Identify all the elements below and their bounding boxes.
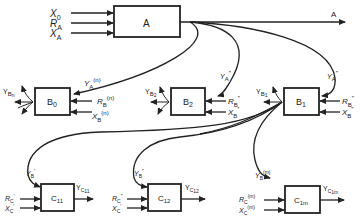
block-a-inputs: X0 RA XA (49, 8, 113, 41)
label-rb-n: RB(n) (97, 95, 114, 108)
block-b2: B2 (171, 88, 205, 115)
block-a: A (114, 6, 180, 37)
label-xb-n: XB(n) (91, 110, 109, 123)
block-b0: B0 (35, 88, 70, 115)
label-xc-p: XC′ (4, 203, 14, 214)
svg-text:A: A (331, 10, 337, 19)
block-c11: C11 (41, 184, 74, 211)
label-xc-m: XC(m) (238, 204, 255, 216)
label-yb1-m: YB(m) (255, 169, 271, 181)
label-xc-p-c12: XC′ (111, 203, 121, 214)
block-b1: B1 (284, 88, 319, 115)
svg-text:A: A (143, 18, 150, 29)
block-c12: C12 (148, 184, 181, 211)
label-yc11: YC11 (76, 184, 90, 194)
label-ya-pp: YA″ (220, 70, 232, 82)
label-yb1-pp: YB″ (134, 168, 144, 179)
label-yc1m: YC1m (323, 185, 338, 195)
label-yc12: YC12 (185, 184, 199, 194)
label-ybn: YBn (3, 88, 15, 98)
system-diagram: A X0 RA XA A B0 YA(n) RB(n) XB(n) YBn (0, 0, 361, 222)
block-c1m: C1m (285, 186, 320, 213)
label-yb1-p: YB′ (26, 168, 35, 179)
label-yb2: YB2 (145, 88, 157, 98)
label-yb1: YB1 (256, 88, 268, 98)
block-a-output: A (180, 10, 345, 22)
